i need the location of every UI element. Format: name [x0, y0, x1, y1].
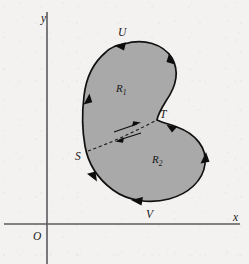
y-axis-label: y	[40, 12, 47, 25]
origin-label: O	[33, 230, 42, 242]
point-label-V: V	[146, 208, 155, 220]
region-label-r1-subscript: 1	[123, 88, 127, 97]
shaded-region	[83, 42, 206, 202]
point-label-S: S	[75, 150, 81, 162]
vector-figure: y x O U T S V R1 R2	[0, 0, 249, 264]
orientation-arrow-left-lower	[87, 172, 97, 182]
x-axis-label: x	[232, 211, 239, 223]
point-label-T: T	[160, 108, 168, 120]
point-label-U: U	[118, 26, 127, 38]
region-label-r2-subscript: 2	[159, 159, 163, 168]
figure-container: y x O U T S V R1 R2	[0, 0, 249, 264]
